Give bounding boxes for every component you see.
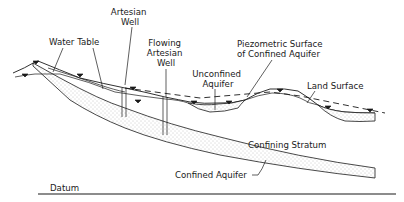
aquifer-cross-section-diagram: Artesian Well Water Table Flowing Artesi… (0, 0, 404, 202)
water-level-icon (77, 74, 83, 77)
label-artesian-well: Artesian Well (111, 7, 149, 27)
label-land-surface: Land Surface (307, 81, 363, 91)
water-table-leader (53, 48, 63, 72)
label-confining-stratum: Confining Stratum (248, 140, 326, 150)
label-piezometric-surface: Piezometric Surface of Confined Aquifer (237, 39, 325, 59)
water-level-icon (135, 100, 141, 103)
label-confined-aquifer: Confined Aquifer (175, 170, 247, 180)
confining-stratum-top (245, 93, 318, 105)
label-flowing-artesian-well: Flowing Artesian Well (147, 38, 185, 68)
label-unconfined-aquifer: Unconfined Aquifer (192, 69, 244, 89)
piezometric-leader (247, 60, 272, 97)
label-datum: Datum (50, 183, 79, 193)
label-water-table: Water Table (49, 37, 99, 47)
water-level-icon (367, 109, 373, 112)
water-level-icon (277, 89, 283, 92)
piezometric-surface-line (125, 88, 385, 113)
artesian-well-leader (125, 27, 132, 85)
